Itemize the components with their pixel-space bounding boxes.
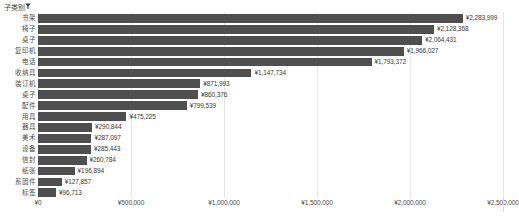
bar-row[interactable]: 收纳具¥1,147,734 bbox=[0, 68, 507, 79]
bar-row[interactable]: 桌子¥2,064,431 bbox=[0, 35, 507, 46]
bar-row[interactable]: 信封¥260,784 bbox=[0, 155, 507, 166]
bar[interactable] bbox=[38, 69, 251, 78]
bar-row[interactable]: 用具¥475,225 bbox=[0, 111, 507, 122]
category-label: 桌子 bbox=[0, 36, 36, 44]
category-label: 装订机 bbox=[0, 80, 36, 88]
bar-value-label: ¥1,966,027 bbox=[404, 47, 439, 55]
plot-area: 书架¥2,283,999椅子¥2,128,368桌子¥2,064,431复印机¥… bbox=[0, 12, 507, 198]
category-label: 信封 bbox=[0, 156, 36, 164]
x-tick-label: ¥1,000,000 bbox=[208, 198, 240, 208]
bar-value-label: ¥127,857 bbox=[62, 178, 91, 186]
bar-row[interactable]: 复印机¥1,966,027 bbox=[0, 46, 507, 57]
bar-track: ¥1,147,734 bbox=[38, 68, 507, 79]
bar[interactable] bbox=[38, 188, 56, 197]
bar-value-label: ¥290,844 bbox=[92, 123, 121, 131]
bar[interactable] bbox=[38, 178, 62, 187]
bar-value-label: ¥260,784 bbox=[87, 156, 116, 164]
bar-value-label: ¥96,713 bbox=[56, 189, 82, 197]
bar-track: ¥2,128,368 bbox=[38, 24, 507, 35]
bar-row[interactable]: 纸张¥196,894 bbox=[0, 166, 507, 177]
bar-track: ¥1,793,372 bbox=[38, 57, 507, 68]
category-label: 标签 bbox=[0, 189, 36, 197]
bar-track: ¥260,784 bbox=[38, 155, 507, 166]
bar-track: ¥2,064,431 bbox=[38, 35, 507, 46]
bar[interactable] bbox=[38, 112, 126, 121]
bar-value-label: ¥799,539 bbox=[187, 102, 216, 110]
bar[interactable] bbox=[38, 167, 75, 176]
category-label: 桌子 bbox=[0, 91, 36, 99]
filter-label: 子类别 bbox=[4, 2, 24, 12]
bar-row[interactable]: 书架¥2,283,999 bbox=[0, 13, 507, 24]
x-tick-label: ¥0 bbox=[34, 198, 41, 208]
bar[interactable] bbox=[38, 90, 198, 99]
bar[interactable] bbox=[38, 79, 200, 88]
bar-track: ¥475,225 bbox=[38, 111, 507, 122]
bar-row[interactable]: 设备¥285,443 bbox=[0, 144, 507, 155]
category-label: 纸张 bbox=[0, 167, 36, 175]
category-label: 收纳具 bbox=[0, 69, 36, 77]
bar-row[interactable]: 椅子¥2,128,368 bbox=[0, 24, 507, 35]
bar-row[interactable]: 配件¥799,539 bbox=[0, 100, 507, 111]
bar[interactable] bbox=[38, 134, 91, 143]
bar-value-label: ¥1,147,734 bbox=[251, 69, 286, 77]
category-label: 电话 bbox=[0, 58, 36, 66]
bar[interactable] bbox=[38, 123, 92, 132]
category-label: 用具 bbox=[0, 113, 36, 121]
bar-track: ¥860,376 bbox=[38, 89, 507, 100]
bar-value-label: ¥2,128,368 bbox=[434, 25, 469, 33]
category-label: 器具 bbox=[0, 123, 36, 131]
bar-value-label: ¥1,793,372 bbox=[372, 58, 407, 66]
bar-value-label: ¥860,376 bbox=[198, 91, 227, 99]
bar[interactable] bbox=[38, 156, 87, 165]
bar[interactable] bbox=[38, 14, 463, 23]
category-label: 椅子 bbox=[0, 25, 36, 33]
x-tick-label: ¥1,500,000 bbox=[301, 198, 333, 208]
bar-row[interactable]: 电话¥1,793,372 bbox=[0, 57, 507, 68]
bar-track: ¥196,894 bbox=[38, 166, 507, 177]
category-label: 配件 bbox=[0, 102, 36, 110]
bar-track: ¥871,993 bbox=[38, 78, 507, 89]
subcategory-filter[interactable]: 子类别 bbox=[4, 1, 31, 12]
bar-value-label: ¥287,097 bbox=[91, 134, 120, 142]
bar-track: ¥127,857 bbox=[38, 177, 507, 188]
x-tick-label: ¥500,000 bbox=[118, 198, 144, 208]
bar-value-label: ¥475,225 bbox=[126, 113, 155, 121]
bar-value-label: ¥285,443 bbox=[91, 145, 120, 153]
bar-value-label: ¥871,993 bbox=[200, 80, 229, 88]
bar-track: ¥287,097 bbox=[38, 133, 507, 144]
category-label: 美术 bbox=[0, 134, 36, 142]
bar[interactable] bbox=[38, 58, 372, 67]
bar-row[interactable]: 装订机¥871,993 bbox=[0, 78, 507, 89]
bar-row[interactable]: 美术¥287,097 bbox=[0, 133, 507, 144]
funnel-icon[interactable] bbox=[25, 3, 31, 10]
bar-rows: 书架¥2,283,999椅子¥2,128,368桌子¥2,064,431复印机¥… bbox=[0, 12, 507, 198]
bar[interactable] bbox=[38, 101, 187, 110]
bar-row[interactable]: 系固件¥127,857 bbox=[0, 177, 507, 188]
bar[interactable] bbox=[38, 36, 422, 45]
bar[interactable] bbox=[38, 25, 434, 34]
bar-track: ¥96,713 bbox=[38, 187, 507, 198]
bar-row[interactable]: 标签¥96,713 bbox=[0, 187, 507, 198]
axis-right-rule bbox=[503, 198, 504, 212]
x-axis: ¥0¥500,000¥1,000,000¥1,500,000¥2,000,000… bbox=[0, 198, 507, 212]
bar-track: ¥1,966,027 bbox=[38, 46, 507, 57]
bar-row[interactable]: 器具¥290,844 bbox=[0, 122, 507, 133]
x-tick-label: ¥2,000,000 bbox=[394, 198, 426, 208]
bar-value-label: ¥196,894 bbox=[75, 167, 104, 175]
category-label: 书架 bbox=[0, 14, 36, 22]
category-label: 系固件 bbox=[0, 178, 36, 186]
bar[interactable] bbox=[38, 47, 404, 56]
bar-row[interactable]: 桌子¥860,376 bbox=[0, 89, 507, 100]
bar[interactable] bbox=[38, 145, 91, 154]
category-label: 复印机 bbox=[0, 47, 36, 55]
bar-value-label: ¥2,064,431 bbox=[422, 36, 457, 44]
category-label: 设备 bbox=[0, 145, 36, 153]
bar-track: ¥290,844 bbox=[38, 122, 507, 133]
bar-track: ¥799,539 bbox=[38, 100, 507, 111]
bar-value-label: ¥2,283,999 bbox=[463, 14, 498, 22]
bar-track: ¥285,443 bbox=[38, 144, 507, 155]
bar-track: ¥2,283,999 bbox=[38, 13, 507, 24]
